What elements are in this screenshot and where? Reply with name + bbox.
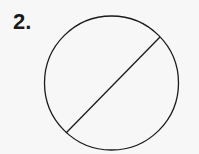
- circle-diagram: [0, 0, 199, 154]
- circle-outline: [45, 16, 179, 150]
- chord-line: [66, 37, 160, 133]
